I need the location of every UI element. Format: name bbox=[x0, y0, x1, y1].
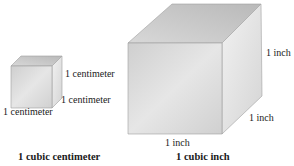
small-cube-depth-label: 1 centimeter bbox=[61, 95, 111, 105]
small-cube-height-label: 1 centimeter bbox=[65, 69, 115, 79]
small-cube-width-label: 1 centimeter bbox=[3, 107, 53, 117]
large-cube-front-face bbox=[128, 43, 222, 134]
large-cube-depth-label: 1 inch bbox=[249, 113, 274, 123]
large-cube-caption: 1 cubic inch bbox=[176, 152, 230, 163]
cube-comparison-figure bbox=[0, 0, 294, 166]
small-cube-caption: 1 cubic centimeter bbox=[18, 152, 100, 163]
small-cube bbox=[11, 56, 62, 108]
small-cube-front-face bbox=[11, 66, 52, 108]
large-cube bbox=[128, 4, 262, 134]
large-cube-height-label: 1 inch bbox=[266, 48, 291, 58]
large-cube-width-label: 1 inch bbox=[165, 138, 190, 148]
